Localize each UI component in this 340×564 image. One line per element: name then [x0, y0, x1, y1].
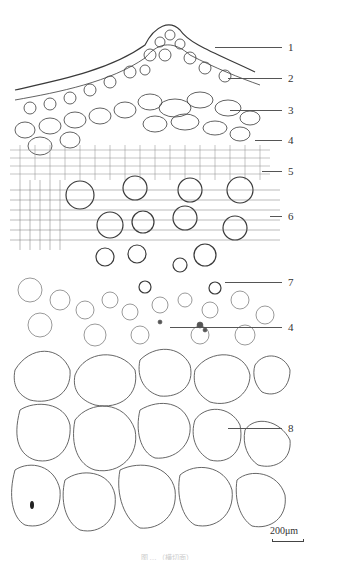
figure-caption: 图 … （横切面） — [62, 552, 272, 560]
leader-line-7 — [225, 282, 282, 283]
leader-line-6 — [270, 216, 282, 217]
label-3: 3 — [288, 105, 294, 116]
leader-line-3 — [230, 110, 282, 111]
label-5: 5 — [288, 166, 294, 177]
scale-bar-line — [272, 539, 304, 542]
label-4: 4 — [288, 135, 294, 146]
leader-line-5 — [262, 171, 282, 172]
leader-line-4 — [255, 140, 282, 141]
label-8: 8 — [288, 423, 294, 434]
label-1: 1 — [288, 42, 294, 53]
leader-line-8 — [228, 428, 282, 429]
stem-cross-section-image — [0, 0, 300, 540]
leader-line-4b — [170, 327, 282, 328]
label-7: 7 — [288, 277, 294, 288]
label-4b: 4 — [288, 322, 294, 333]
scale-bar: 200μm — [270, 525, 310, 543]
label-2: 2 — [288, 73, 294, 84]
label-6: 6 — [288, 211, 294, 222]
leader-line-2 — [228, 78, 282, 79]
scale-bar-label: 200μm — [270, 525, 298, 536]
micrograph-figure: 1 2 3 4 5 6 7 4 8 200μm 图 … （横切面） — [0, 0, 340, 564]
leader-line-1 — [215, 47, 282, 48]
